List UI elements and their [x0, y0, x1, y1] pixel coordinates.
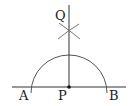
label-q: Q: [55, 8, 66, 23]
label-b: B: [109, 88, 119, 103]
label-a: A: [18, 88, 29, 103]
label-p: P: [58, 88, 67, 103]
construction-diagram: Q A P B: [0, 0, 134, 106]
point-p-dot: [67, 85, 71, 89]
